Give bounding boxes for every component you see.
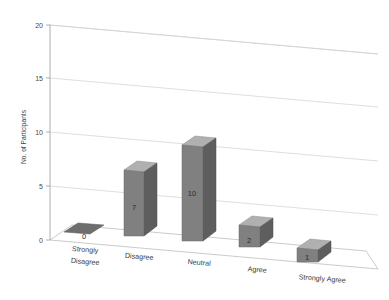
category-label-agree: Agree <box>247 264 267 274</box>
chart-canvas: 20 15 10 5 0 No. of Participants 0 7 10 <box>0 0 389 300</box>
backwall-top-edge <box>50 25 378 54</box>
bar-2-value-label: 10 <box>188 189 196 198</box>
y-tick-label-20: 20 <box>35 22 43 29</box>
category-label-strongly-disagree-line1: Strongly <box>72 244 99 255</box>
y-tick-label-0: 0 <box>39 237 43 244</box>
bar-3-value-label: 2 <box>247 236 251 245</box>
bar-strongly-disagree: 0 <box>64 223 104 241</box>
bar-0-value-label: 0 <box>82 232 86 241</box>
category-label-neutral: Neutral <box>187 257 211 268</box>
y-tick-label-5: 5 <box>39 183 43 190</box>
category-label-strongly-disagree-line2: Disagree <box>71 256 100 267</box>
bar-1-side <box>144 163 157 236</box>
y-axis-ticks <box>46 25 50 240</box>
y-tick-label-10: 10 <box>35 129 43 136</box>
gridline-15 <box>50 78 378 107</box>
bar-neutral: 10 <box>182 136 216 241</box>
y-tick-label-15: 15 <box>35 75 43 82</box>
bar-1-value-label: 7 <box>132 203 136 212</box>
category-label-strongly-agree: Strongly Agree <box>298 272 346 285</box>
bar-4-value-label: 1 <box>305 253 309 262</box>
bar-strongly-agree: 1 <box>297 239 331 262</box>
bar-chart-figure: 20 15 10 5 0 No. of Participants 0 7 10 <box>0 0 389 300</box>
floor-depth-right <box>366 251 378 269</box>
category-label-disagree: Disagree <box>125 251 154 262</box>
bar-disagree: 7 <box>124 161 157 236</box>
bar-2-side <box>203 138 216 241</box>
y-axis-title: No. of Participants <box>20 109 28 164</box>
